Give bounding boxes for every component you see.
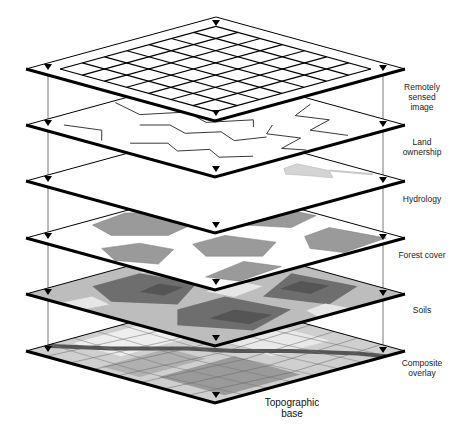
layer-label-remotely-sensed: Remotelysensedimage — [387, 82, 457, 112]
layer-label-hydrology: Hydrology — [387, 194, 457, 204]
layer-label-composite-overlay: Compositeoverlay — [387, 358, 457, 378]
layer-label-soils: Soils — [387, 305, 457, 315]
topographic-base-label: Topographicbase — [247, 397, 337, 419]
layer-label-forest-cover: Forest cover — [387, 250, 457, 260]
layer-remotely-sensed — [26, 17, 405, 121]
layer-label-land-ownership: Landownership — [387, 137, 457, 157]
